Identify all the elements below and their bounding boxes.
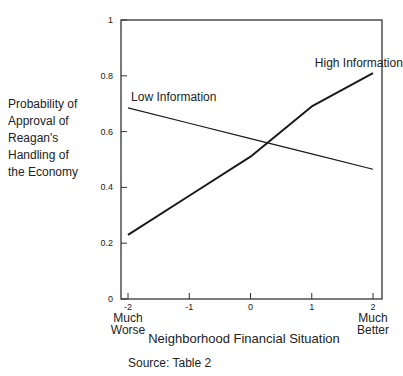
x-axis-label: Neighborhood Financial Situation xyxy=(148,331,340,346)
y-tick-label: 0 xyxy=(108,294,113,304)
annotations: High InformationLow Information xyxy=(131,56,403,103)
y-tick-label: 0.4 xyxy=(100,182,113,192)
y-axis-label-line: Reagan's xyxy=(8,130,118,147)
y-axis-label-line: Probability of xyxy=(8,96,118,113)
y-axis-label-line: the Economy xyxy=(8,164,118,181)
series-annotation: Low Information xyxy=(131,90,216,104)
y-tick-label: 1 xyxy=(108,15,113,25)
x-tick-label: -1 xyxy=(185,302,193,312)
y-tick-label: 0.2 xyxy=(100,238,113,248)
chart-root: 00.20.40.60.81-2-1012MuchWorseMuchBetter… xyxy=(0,0,403,376)
x-tick-label: 1 xyxy=(309,302,314,312)
series-line-low-information xyxy=(128,108,373,169)
series-annotation: High Information xyxy=(315,56,403,70)
x-tick-label: 0 xyxy=(248,302,253,312)
x-end-label-right: Better xyxy=(357,323,389,337)
source-note: Source: Table 2 xyxy=(128,356,211,370)
y-axis-label: Probability ofApproval ofReagan'sHandlin… xyxy=(8,96,118,181)
y-axis-label-line: Handling of xyxy=(8,147,118,164)
y-axis-label-line: Approval of xyxy=(8,113,118,130)
line-chart: 00.20.40.60.81-2-1012MuchWorseMuchBetter… xyxy=(0,0,403,376)
y-tick-label: 0.8 xyxy=(100,71,113,81)
x-end-label-left: Worse xyxy=(111,323,146,337)
